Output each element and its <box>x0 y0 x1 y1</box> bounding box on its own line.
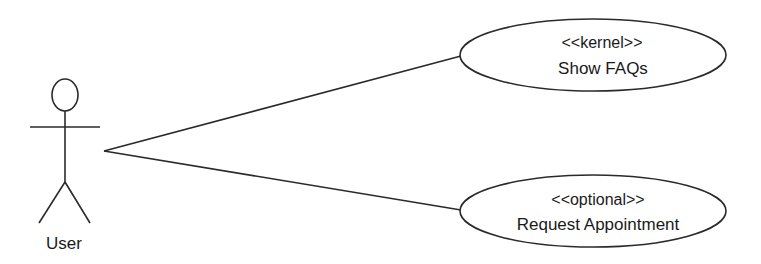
use-case-show-faqs[interactable]: <<kernel>> Show FAQs <box>460 19 726 91</box>
use-case-request-appointment[interactable]: <<optional>> Request Appointment <box>460 175 726 247</box>
actor-right-leg <box>65 182 90 223</box>
association-show-faqs[interactable] <box>104 56 461 151</box>
actor-head <box>52 79 78 111</box>
association-request-appointment[interactable] <box>104 151 461 210</box>
actor-left-leg <box>39 182 65 223</box>
use-case-name: Show FAQs <box>558 59 648 78</box>
use-case-ellipse <box>460 19 726 91</box>
use-case-stereotype: <<optional>> <box>551 191 644 208</box>
use-case-stereotype: <<kernel>> <box>562 34 643 51</box>
use-case-ellipse <box>460 175 726 247</box>
use-case-name: Request Appointment <box>517 215 680 234</box>
actor-label: User <box>46 234 82 253</box>
use-case-diagram: User <<kernel>> Show FAQs <<optional>> R… <box>0 0 761 264</box>
actor-user[interactable] <box>30 79 100 223</box>
